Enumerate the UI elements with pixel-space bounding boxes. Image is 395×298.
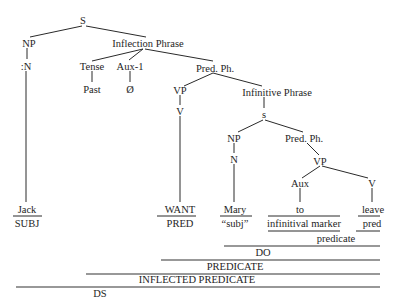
tree-nodes: S NP :N Inflection Phrase Tense Past Aux…	[21, 15, 376, 189]
bracket-label-ds: DS	[93, 288, 107, 298]
leaf-word-want: WANT	[165, 204, 196, 215]
leaf-gloss-want: PRED	[167, 218, 194, 229]
bracket-label-do: DO	[255, 247, 271, 258]
leaf-gloss-mary: “subj”	[222, 218, 249, 229]
bracket-label-inflected-predicate: INFLECTED PREDICATE	[139, 274, 255, 285]
node-infinitive-phrase: Infinitive Phrase	[242, 87, 312, 98]
node-null-aux: Ø	[126, 84, 134, 95]
node-s-root: S	[80, 15, 86, 26]
syntax-tree-diagram: S NP :N Inflection Phrase Tense Past Aux…	[0, 0, 395, 298]
node-vp-inner: VP	[313, 156, 327, 167]
leaf-word-jack: Jack	[18, 204, 37, 215]
leaf-gloss-to: infinitival marker	[267, 218, 341, 229]
bracket-label-predicate-upper: PREDICATE	[207, 261, 264, 272]
node-np-inner: NP	[227, 133, 241, 144]
function-brackets: predicate DO PREDICATE INFLECTED PREDICA…	[16, 233, 380, 298]
node-past: Past	[83, 84, 101, 95]
leaf-word-to: to	[296, 204, 304, 215]
leaf-gloss-leave: pred	[363, 218, 382, 229]
node-pred-ph-main: Pred. Ph.	[196, 63, 234, 74]
node-s-inner: s	[262, 109, 266, 120]
tree-leaves: Jack SUBJ WANT PRED Mary “subj” to infin…	[13, 204, 384, 231]
node-vp-main: VP	[173, 85, 187, 96]
node-np-subject: NP	[22, 38, 36, 49]
bracket-label-predicate: predicate	[317, 233, 356, 244]
leaf-word-mary: Mary	[224, 204, 247, 215]
node-aux1: Aux-1	[117, 61, 144, 72]
node-n-subject: :N	[21, 61, 32, 72]
node-v-main: V	[176, 106, 184, 117]
node-v-inner: V	[368, 178, 376, 189]
node-aux-inner: Aux	[291, 178, 310, 189]
node-n-inner: N	[230, 154, 238, 165]
node-pred-ph-inner: Pred. Ph.	[285, 133, 323, 144]
tree-branches	[26, 26, 372, 202]
leaf-gloss-jack: SUBJ	[15, 218, 40, 229]
node-tense: Tense	[80, 61, 105, 72]
leaf-word-leave: leave	[362, 204, 384, 215]
node-inflection-phrase: Inflection Phrase	[112, 38, 184, 49]
